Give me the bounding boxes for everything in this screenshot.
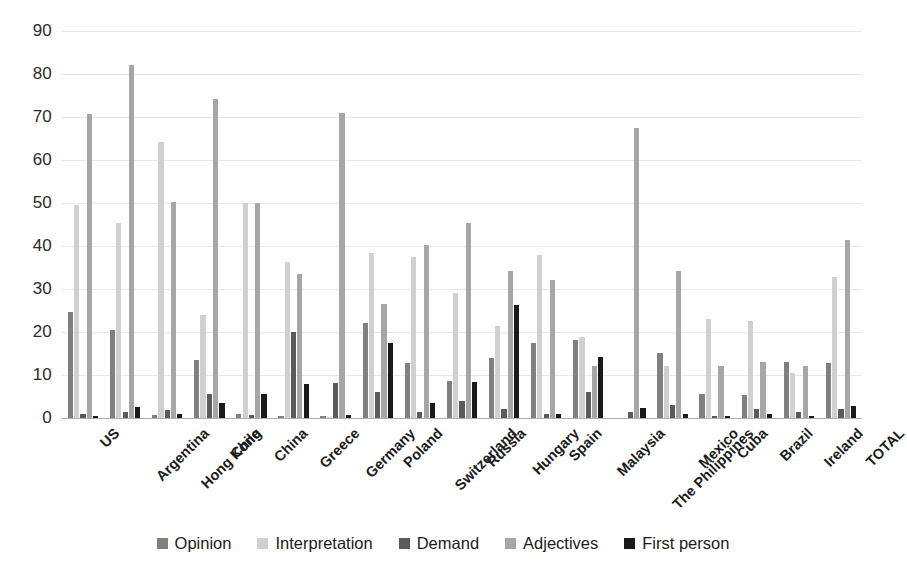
bar-group: [651, 31, 693, 418]
bar: [718, 366, 723, 418]
y-axis-tick-label: 50: [33, 193, 52, 213]
legend-item[interactable]: Opinion: [157, 534, 232, 553]
bar: [845, 240, 850, 418]
legend-item[interactable]: Interpretation: [257, 534, 372, 553]
bar: [363, 323, 368, 418]
bar: [586, 392, 591, 418]
bar: [135, 407, 140, 418]
bar-group: [525, 31, 567, 418]
y-axis-tick-label: 20: [33, 322, 52, 342]
y-axis-tick-label: 60: [33, 150, 52, 170]
legend-item[interactable]: Adjectives: [505, 534, 598, 553]
chart-legend: OpinionInterpretationDemandAdjectivesFir…: [0, 534, 886, 553]
bar: [194, 360, 199, 418]
bar: [261, 394, 266, 419]
y-axis-tick-label: 30: [33, 279, 52, 299]
bar: [640, 408, 645, 418]
bar: [158, 142, 163, 418]
bar: [537, 255, 542, 418]
bar: [447, 381, 452, 418]
bar: [339, 113, 344, 418]
legend-swatch-icon: [399, 538, 410, 549]
bar: [375, 392, 380, 418]
plot-area: [62, 31, 862, 418]
bar: [116, 223, 121, 418]
x-axis-tick-label: Brazil: [776, 425, 815, 464]
bar-group: [736, 31, 778, 418]
bar: [369, 253, 374, 418]
y-axis-tick-label: 0: [42, 408, 52, 428]
bar: [171, 202, 176, 418]
bar-group: [357, 31, 399, 418]
bar: [495, 326, 500, 418]
bar: [405, 363, 410, 418]
bar: [514, 305, 519, 418]
bar-group: [315, 31, 357, 418]
y-axis: 9080706050403020100: [0, 0, 62, 440]
x-axis: USArgentinaHong KongChileChinaGreeceGerm…: [62, 419, 862, 529]
bar: [676, 271, 681, 418]
bar-group: [567, 31, 609, 418]
bar-group: [273, 31, 315, 418]
bar: [754, 409, 759, 418]
bar: [592, 366, 597, 418]
bar: [742, 395, 747, 418]
y-axis-tick-label: 80: [33, 64, 52, 84]
bar: [110, 330, 115, 418]
bar: [297, 274, 302, 418]
bar-group: [188, 31, 230, 418]
bar: [550, 280, 555, 418]
bar: [699, 394, 704, 418]
bar: [430, 403, 435, 418]
y-axis-tick-label: 40: [33, 236, 52, 256]
bar: [579, 337, 584, 418]
bar: [803, 366, 808, 418]
legend-swatch-icon: [257, 538, 268, 549]
bar: [508, 271, 513, 418]
x-axis-tick-label: US: [97, 425, 123, 451]
bar: [664, 366, 669, 418]
bar: [670, 405, 675, 418]
legend-item[interactable]: First person: [624, 534, 729, 553]
bar: [68, 312, 73, 418]
bar: [87, 114, 92, 418]
bar: [748, 321, 753, 418]
bar: [129, 65, 134, 418]
bar-group: [230, 31, 272, 418]
x-axis-tick-label: The Philippines: [670, 425, 757, 512]
bar: [657, 353, 662, 418]
bar: [424, 245, 429, 418]
bar: [207, 394, 212, 419]
bar: [838, 409, 843, 418]
x-axis-tick-label: TOTAL: [863, 425, 907, 470]
bar: [388, 343, 393, 418]
bar-group: [694, 31, 736, 418]
bar: [304, 384, 309, 418]
y-axis-tick-label: 70: [33, 107, 52, 127]
legend-swatch-icon: [624, 538, 635, 549]
bar: [501, 409, 506, 418]
bar: [706, 319, 711, 418]
bar: [255, 203, 260, 418]
y-axis-tick-label: 90: [33, 21, 52, 41]
bar: [219, 403, 224, 418]
bar: [634, 128, 639, 418]
legend-label: Adjectives: [523, 534, 598, 553]
bar: [453, 293, 458, 418]
legend-label: First person: [642, 534, 729, 553]
bar-group: [609, 31, 651, 418]
bar: [489, 358, 494, 418]
bar: [832, 277, 837, 418]
legend-item[interactable]: Demand: [399, 534, 479, 553]
bar-group: [399, 31, 441, 418]
bar: [531, 343, 536, 418]
bar: [243, 203, 248, 418]
x-axis-tick-label: Greece: [316, 425, 362, 471]
bar: [851, 406, 856, 418]
legend-label: Opinion: [175, 534, 232, 553]
bar: [760, 362, 765, 418]
bar: [466, 223, 471, 418]
bar: [573, 340, 578, 418]
legend-swatch-icon: [157, 538, 168, 549]
